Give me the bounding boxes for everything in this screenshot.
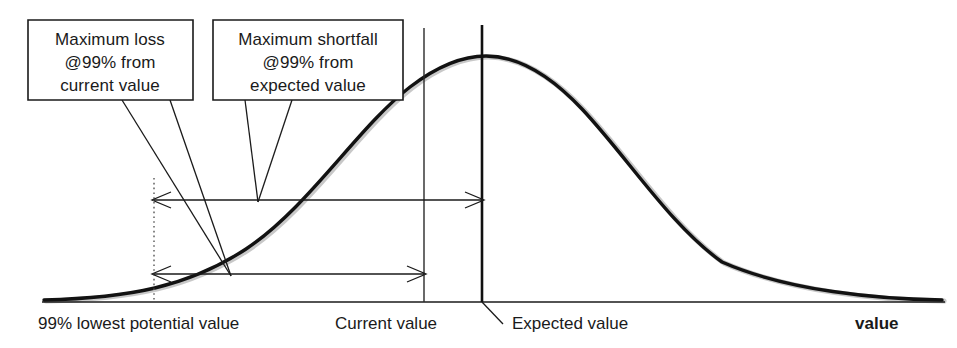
callout-maximum-shortfall-line-3: expected value (250, 76, 366, 95)
label-lowest-potential-value: 99% lowest potential value (38, 314, 239, 333)
callout-maximum-loss-line-2: @99% from (65, 53, 156, 72)
callout-maximum-shortfall-tail2 (258, 100, 292, 202)
callout-maximum-shortfall-line-2: @99% from (263, 53, 354, 72)
callout-maximum-shortfall[interactable]: Maximum shortfall @99% from expected val… (213, 20, 403, 202)
risk-distribution-figure: Maximum loss @99% from current value Max… (0, 0, 957, 348)
callout-maximum-shortfall-line-1: Maximum shortfall (238, 30, 378, 49)
expected-value-leader (482, 302, 503, 324)
upper-measure-arrow (152, 192, 484, 208)
callout-maximum-loss-line-1: Maximum loss (55, 30, 165, 49)
label-expected-value: Expected value (512, 314, 628, 333)
callout-maximum-loss-line-3: current value (60, 76, 160, 95)
diagram-canvas: Maximum loss @99% from current value Max… (0, 0, 957, 348)
callout-maximum-loss[interactable]: Maximum loss @99% from current value (28, 20, 231, 276)
callout-maximum-loss-tail2 (170, 100, 231, 276)
label-current-value: Current value (335, 314, 437, 333)
label-value-axis-title: value (855, 314, 898, 333)
callout-maximum-loss-tail (122, 100, 231, 276)
callout-maximum-shortfall-tail (245, 100, 258, 202)
